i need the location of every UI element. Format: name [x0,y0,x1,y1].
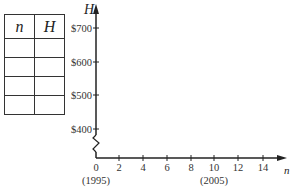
year-annotation-2005: (2005) [200,175,228,187]
x-tick-label: 8 [188,162,193,173]
x-axis-label: n [284,164,290,176]
graph: H $700 $600 $500 $400 n 0 2 4 6 8 10 12 … [0,0,291,191]
x-tick-label: 14 [258,162,269,173]
y-axis-label: H [83,2,95,17]
x-tick-label: 10 [209,162,220,173]
year-annotation-1995: (1995) [82,175,110,187]
y-tick-label: $700 [71,23,92,34]
x-tick-label: 0 [93,162,98,173]
x-arrow-icon [277,155,287,161]
x-tick-label: 6 [164,162,169,173]
x-tick-label: 4 [140,162,146,173]
x-tick-label: 12 [233,162,244,173]
y-tick-label: $500 [71,90,92,101]
x-tick-label: 2 [116,162,121,173]
y-tick-label: $600 [71,57,92,68]
y-tick-label: $400 [71,124,92,135]
axis-break-icon [93,135,99,152]
